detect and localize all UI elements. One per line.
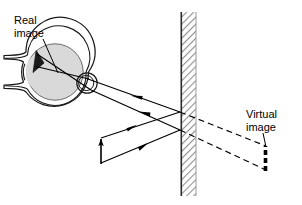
eye-vitreous-body [27,44,83,100]
ray-lower-reflected-arrowhead [138,111,150,116]
plane-mirror [181,12,196,196]
ray-upper-reflected [88,79,180,112]
ray-lower-incident-arrowhead [138,143,149,151]
ray-upper-incident-arrowhead [127,125,137,132]
optics-ray-diagram: Real image Virtual image [0,0,302,205]
reflected-rays [88,79,180,130]
mirror-body [181,12,196,196]
ray-upper-reflected-arrowhead [131,96,143,100]
incident-rays [101,112,180,163]
diagram-canvas [0,0,302,205]
virtual-image-label: Virtual image [246,108,277,133]
real-image-label: Real image [14,14,44,39]
